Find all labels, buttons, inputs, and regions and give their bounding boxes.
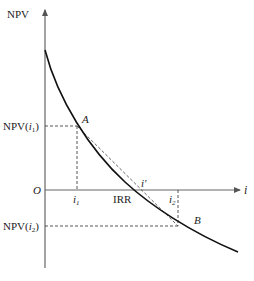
i2-label: i2 xyxy=(169,193,176,207)
point-b-label: B xyxy=(194,214,201,226)
npv-curve xyxy=(45,50,238,252)
point-a-label: A xyxy=(81,113,89,125)
y-axis-label: NPV xyxy=(7,8,29,20)
npv-i1-label: NPV(i1) xyxy=(3,120,39,134)
i-prime-label: i′ xyxy=(141,177,147,189)
irr-label: IRR xyxy=(113,193,132,205)
origin-label: O xyxy=(33,184,41,196)
i1-label: i1 xyxy=(73,193,80,207)
npv-irr-diagram: NPV i O NPV(i1) NPV(i2) A B i1 i2 IRR i′ xyxy=(0,0,254,281)
npv-i2-label: NPV(i2) xyxy=(3,220,39,234)
x-axis-label: i xyxy=(244,183,247,197)
